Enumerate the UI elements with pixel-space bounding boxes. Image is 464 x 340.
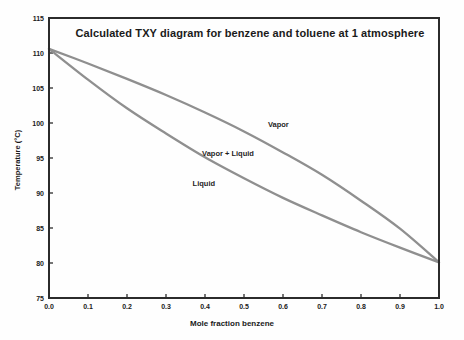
y-axis-title: Temperature (°C) — [13, 130, 22, 190]
x-tick-label: 0.5 — [239, 303, 249, 310]
x-tick-label: 0.0 — [44, 303, 54, 310]
x-tick-label: 0.2 — [122, 303, 132, 310]
txy-phase-diagram: Calculated TXY diagram for benzene and t… — [0, 0, 464, 340]
axis-box — [49, 18, 439, 298]
y-tick-label: 95 — [36, 155, 44, 162]
y-tick-label: 100 — [32, 120, 44, 127]
y-tick-label: 75 — [36, 295, 44, 302]
x-tick-label: 1.0 — [434, 303, 444, 310]
y-tick-label: 115 — [33, 15, 44, 22]
y-tick-label: 105 — [32, 85, 44, 92]
x-tick-label: 0.7 — [317, 303, 327, 310]
plot-area: 75808590951001051101150.00.10.20.30.40.5… — [0, 0, 464, 340]
y-tick-label: 85 — [36, 225, 44, 232]
region-label-vapor-liquid: Vapor + Liquid — [202, 149, 254, 158]
x-tick-label: 0.4 — [200, 303, 210, 310]
region-label-liquid: Liquid — [193, 178, 216, 187]
x-tick-label: 0.8 — [356, 303, 366, 310]
region-label-vapor: Vapor — [268, 119, 289, 128]
x-tick-label: 0.1 — [83, 303, 93, 310]
x-tick-label: 0.3 — [161, 303, 171, 310]
x-axis-title: Mole fraction benzene — [0, 319, 464, 328]
y-tick-label: 80 — [36, 260, 44, 267]
x-tick-label: 0.9 — [395, 303, 405, 310]
y-tick-label: 90 — [36, 190, 44, 197]
x-tick-label: 0.6 — [278, 303, 288, 310]
y-tick-label: 110 — [33, 50, 44, 57]
